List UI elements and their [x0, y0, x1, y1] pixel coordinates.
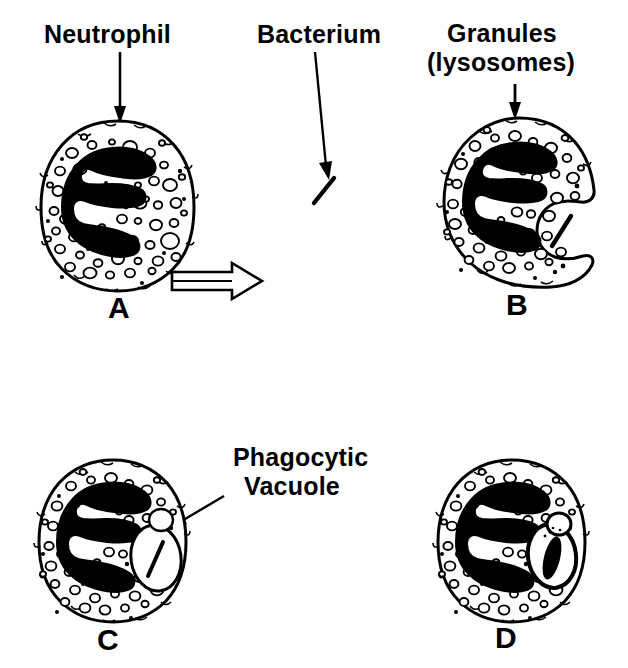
panel-d: D [433, 460, 589, 654]
adjacent-granule-c [149, 509, 173, 531]
panel-letter-d: D [495, 621, 517, 654]
label-phagocytic-line1: Phagocytic [233, 444, 368, 471]
cell-c [34, 460, 190, 622]
label-neutrophil: Neutrophil [44, 20, 171, 49]
granules-pointer-arrow [509, 84, 521, 120]
panel-c: C [34, 460, 224, 656]
cell-d [433, 460, 589, 622]
cell-a [36, 121, 198, 291]
panel-letter-c: C [97, 623, 119, 656]
neutrophil-pointer-arrow [114, 52, 126, 124]
bacterium-free [314, 52, 334, 203]
bacterium-engulfed-b [552, 216, 571, 246]
phagocytosis-diagram: A B [0, 0, 628, 668]
bacterium-rod [314, 178, 334, 203]
label-granules-line2: (lysosomes) [427, 49, 575, 76]
panel-letter-b: B [506, 288, 528, 321]
process-arrow [172, 263, 262, 299]
panel-b: B [437, 84, 594, 321]
label-bacterium: Bacterium [257, 20, 381, 49]
label-granules-line1: Granules [447, 20, 557, 47]
cell-b [437, 118, 594, 287]
bacterium-pointer-arrow [315, 52, 332, 180]
panel-letter-a: A [108, 291, 130, 324]
label-phagocytic-line2: Vacuole [244, 473, 340, 500]
